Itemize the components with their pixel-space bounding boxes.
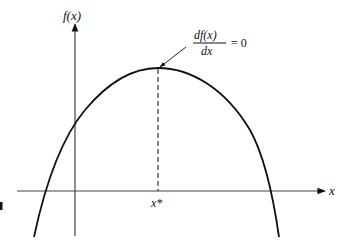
derivative-numerator: df(x) — [194, 28, 217, 42]
x-axis-label: x — [328, 183, 335, 198]
function-curve — [34, 68, 279, 237]
edge-mark — [0, 202, 3, 210]
critical-point-label: x* — [150, 196, 162, 210]
derivative-annotation: df(x) dx = 0 — [193, 28, 247, 58]
derivative-equals-zero: = 0 — [231, 36, 247, 50]
annotation-pointer — [160, 47, 186, 67]
derivative-denominator: dx — [201, 44, 213, 58]
y-axis-label: f(x) — [63, 8, 81, 23]
maximum-diagram: x f(x) x* df(x) dx = 0 — [0, 0, 346, 248]
